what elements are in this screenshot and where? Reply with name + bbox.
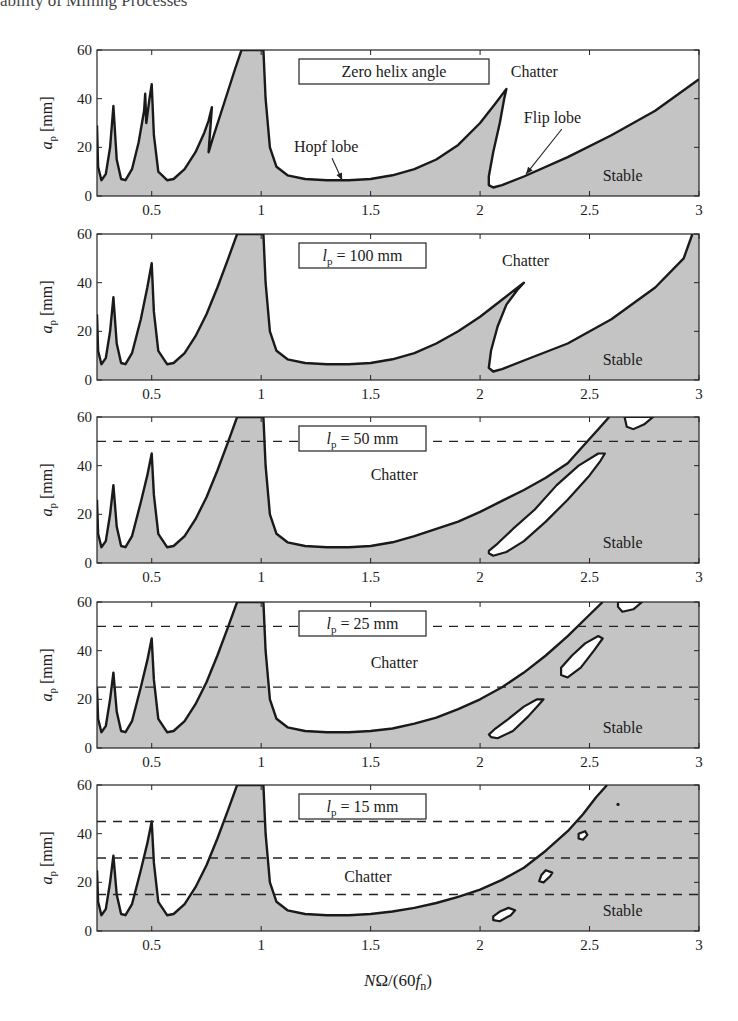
- panel-4: 0.511.522.530204060ap [mm]lp = 25 mmChat…: [38, 594, 703, 770]
- x-axis-label: NΩ/(60fn): [363, 971, 432, 993]
- y-tick-label: 0: [85, 555, 93, 571]
- x-tick-label: 0.5: [142, 937, 161, 953]
- stability-lobe-figure: 0.511.522.530204060ap [mm]Zero helix ang…: [0, 0, 738, 1021]
- y-axis-label: ap [mm]: [38, 280, 58, 333]
- annotation-stable: Stable: [603, 534, 643, 551]
- x-tick-label: 2: [476, 937, 484, 953]
- x-tick-label: 2.5: [580, 569, 599, 585]
- y-tick-label: 0: [85, 923, 93, 939]
- annotation-chatter: Chatter: [371, 654, 419, 671]
- x-tick-label: 0.5: [142, 202, 161, 218]
- x-tick-label: 2.5: [580, 386, 599, 402]
- y-tick-label: 20: [77, 691, 92, 707]
- y-tick-label: 0: [85, 188, 93, 204]
- x-tick-label: 1: [257, 569, 265, 585]
- y-tick-label: 20: [77, 506, 92, 522]
- x-tick-label: 1.5: [361, 569, 380, 585]
- arrow-icon: [332, 158, 342, 180]
- annotation-stable: Stable: [603, 351, 643, 368]
- x-tick-label: 3: [695, 202, 703, 218]
- y-tick-label: 60: [77, 409, 92, 425]
- panel-3: 0.511.522.530204060ap [mm]lp = 50 mmChat…: [38, 409, 703, 585]
- annotation-stable: Stable: [603, 167, 643, 184]
- panel-5: 0.511.522.530204060ap [mm]lp = 15 mmChat…: [38, 777, 703, 953]
- y-tick-label: 20: [77, 139, 92, 155]
- x-tick-label: 0.5: [142, 569, 161, 585]
- x-tick-label: 2: [476, 569, 484, 585]
- x-tick-label: 1: [257, 202, 265, 218]
- annotation-chatter: Chatter: [502, 252, 550, 269]
- annotation-chatter: Chatter: [344, 868, 392, 885]
- x-tick-label: 2.5: [580, 937, 599, 953]
- y-tick-label: 20: [77, 874, 92, 890]
- svg-text:NΩ/(60fn): NΩ/(60fn): [363, 971, 432, 993]
- y-tick-label: 40: [77, 458, 92, 474]
- y-tick-label: 60: [77, 594, 92, 610]
- y-tick-label: 40: [77, 826, 92, 842]
- x-tick-label: 3: [695, 937, 703, 953]
- panel-1: 0.511.522.530204060ap [mm]Zero helix ang…: [38, 42, 703, 218]
- x-tick-label: 2: [476, 754, 484, 770]
- y-tick-label: 0: [85, 740, 93, 756]
- y-tick-label: 60: [77, 42, 92, 58]
- x-tick-label: 2: [476, 386, 484, 402]
- x-tick-label: 1.5: [361, 937, 380, 953]
- y-tick-label: 40: [77, 643, 92, 659]
- annotation-stable: Stable: [603, 719, 643, 736]
- x-tick-label: 0.5: [142, 386, 161, 402]
- y-axis-label: ap [mm]: [38, 648, 58, 701]
- y-tick-label: 40: [77, 275, 92, 291]
- panel-label: Zero helix angle: [342, 63, 447, 81]
- x-tick-label: 1.5: [361, 386, 380, 402]
- x-tick-label: 1.5: [361, 202, 380, 218]
- panel-2: 0.511.522.530204060ap [mm]lp = 100 mmCha…: [38, 226, 703, 402]
- y-axis-label: ap [mm]: [38, 96, 58, 149]
- y-tick-label: 0: [85, 372, 93, 388]
- x-tick-label: 2: [476, 202, 484, 218]
- y-tick-label: 20: [77, 323, 92, 339]
- annotation-chatter: Chatter: [511, 63, 559, 80]
- x-tick-label: 1: [257, 754, 265, 770]
- x-tick-label: 1: [257, 937, 265, 953]
- annotation-chatter: Chatter: [371, 466, 419, 483]
- x-tick-label: 3: [695, 386, 703, 402]
- annotation-stable: Stable: [603, 902, 643, 919]
- x-tick-label: 3: [695, 754, 703, 770]
- x-tick-label: 1: [257, 386, 265, 402]
- x-tick-label: 0.5: [142, 754, 161, 770]
- y-axis-label: ap [mm]: [38, 831, 58, 884]
- annotation-flip-lobe: Flip lobe: [524, 109, 581, 127]
- y-tick-label: 60: [77, 777, 92, 793]
- x-tick-label: 3: [695, 569, 703, 585]
- x-tick-label: 2.5: [580, 754, 599, 770]
- annotation-hopf-lobe: Hopf lobe: [294, 138, 358, 156]
- x-tick-label: 1.5: [361, 754, 380, 770]
- y-tick-label: 40: [77, 91, 92, 107]
- chatter-point: [616, 803, 619, 806]
- y-axis-label: ap [mm]: [38, 463, 58, 516]
- y-tick-label: 60: [77, 226, 92, 242]
- x-tick-label: 2.5: [580, 202, 599, 218]
